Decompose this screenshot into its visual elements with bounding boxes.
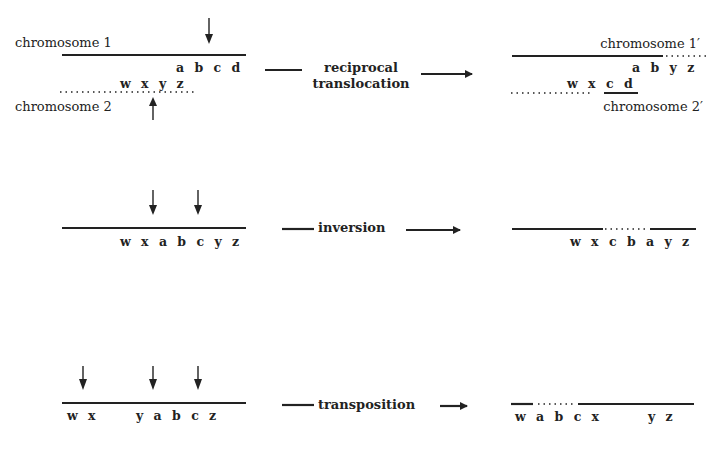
break-arrow-down-icon	[205, 18, 213, 44]
row-reciprocal-translocation: chromosome 1 a b c d w x y z chromosome …	[15, 18, 708, 120]
chromosome-2-prime-genes: w x c d	[566, 76, 636, 91]
translocation-operation: reciprocal translocation	[265, 60, 472, 91]
inversion-before-genes: w x a b c y z	[119, 234, 242, 249]
transposition-operation: transposition	[282, 397, 467, 412]
chromosome-1-genes: a b c d	[176, 60, 243, 75]
transposition-before-genes-left: w x	[66, 408, 99, 423]
operation-label: inversion	[318, 220, 386, 235]
translocation-after: chromosome 1′ a b y z w x c d chromosome…	[511, 36, 708, 114]
transposition-after: w a b c x y z	[511, 404, 694, 424]
chromosome-2-label: chromosome 2	[15, 99, 112, 114]
row-transposition: w x y a b c z transposition w a b c x y …	[62, 366, 694, 424]
row-inversion: w x a b c y z inversion w x c b a y z	[62, 190, 696, 249]
break-arrow-up-icon	[149, 97, 157, 120]
transposition-before: w x y a b c z	[62, 366, 246, 423]
break-arrow-down-icon	[194, 366, 202, 390]
chromosome-2-prime-label: chromosome 2′	[603, 99, 703, 114]
operation-label-line1: reciprocal	[324, 60, 398, 75]
break-arrow-down-icon	[149, 190, 157, 215]
chromosome-2-genes: w x y z	[119, 76, 187, 91]
inversion-operation: inversion	[282, 220, 460, 235]
inversion-before: w x a b c y z	[62, 190, 246, 249]
operation-label-line2: translocation	[312, 76, 410, 91]
transposition-after-genes-left: w a b c x	[514, 409, 602, 424]
translocation-before: chromosome 1 a b c d w x y z chromosome …	[15, 18, 246, 120]
chromosome-1-label: chromosome 1	[15, 35, 112, 50]
inversion-after: w x c b a y z	[512, 229, 696, 249]
transposition-before-genes-right: y a b c z	[135, 408, 219, 423]
break-arrow-down-icon	[149, 366, 157, 390]
break-arrow-down-icon	[194, 190, 202, 215]
chromosome-1-prime-label: chromosome 1′	[600, 36, 700, 51]
chromosome-1-prime-genes: a b y z	[632, 60, 697, 75]
rearrangement-diagram: chromosome 1 a b c d w x y z chromosome …	[0, 0, 720, 450]
inversion-after-genes: w x c b a y z	[569, 234, 692, 249]
break-arrow-down-icon	[79, 366, 87, 390]
operation-label: transposition	[318, 397, 416, 412]
transposition-after-genes-right: y z	[647, 409, 676, 424]
